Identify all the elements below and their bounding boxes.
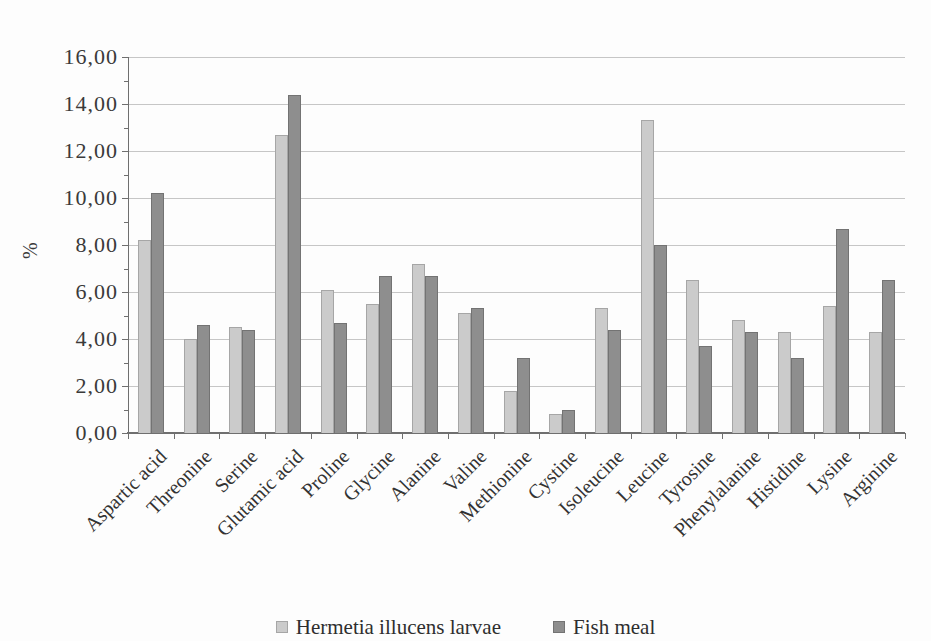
- y-minor-tick-15: [124, 81, 128, 82]
- bar-hermetia-illucens-larvae-lysine: [823, 306, 836, 433]
- amino-acid-bar-chart: % 0,002,004,006,008,0010,0012,0014,0016,…: [0, 0, 931, 641]
- x-tick-14: [768, 433, 769, 439]
- gridline-14: [128, 104, 905, 105]
- bar-fish-meal-lysine: [836, 229, 849, 433]
- y-major-tick-6: [122, 292, 128, 293]
- x-tick-4: [311, 433, 312, 439]
- legend-item-hermetia-illucens-larvae: Hermetia illucens larvae: [276, 614, 501, 640]
- y-major-tick-10: [122, 198, 128, 199]
- x-tick-16: [859, 433, 860, 439]
- gridline-10: [128, 198, 905, 199]
- x-tick-7: [448, 433, 449, 439]
- bar-hermetia-illucens-larvae-cystine: [549, 414, 562, 433]
- x-tick-3: [265, 433, 266, 439]
- y-axis-line: [128, 57, 129, 433]
- y-minor-tick-9: [124, 222, 128, 223]
- bar-fish-meal-leucine: [654, 245, 667, 433]
- bar-fish-meal-alanine: [425, 276, 438, 433]
- gridline-8: [128, 245, 905, 246]
- x-tick-11: [631, 433, 632, 439]
- legend-item-fish-meal: Fish meal: [553, 614, 655, 640]
- bar-fish-meal-phenylalanine: [745, 332, 758, 433]
- y-tick-label-0: 0,00: [48, 421, 118, 445]
- legend-swatch-hermetia-illucens-larvae: [276, 621, 288, 633]
- legend-label-hermetia-illucens-larvae: Hermetia illucens larvae: [296, 614, 501, 640]
- bar-hermetia-illucens-larvae-serine: [229, 327, 242, 433]
- bar-hermetia-illucens-larvae-proline: [321, 290, 334, 433]
- y-minor-tick-7: [124, 269, 128, 270]
- x-tick-17: [905, 433, 906, 439]
- bar-fish-meal-arginine: [882, 280, 895, 433]
- y-major-tick-14: [122, 104, 128, 105]
- bar-fish-meal-isoleucine: [608, 330, 621, 433]
- x-tick-8: [494, 433, 495, 439]
- y-minor-tick-11: [124, 175, 128, 176]
- x-tick-2: [219, 433, 220, 439]
- x-tick-5: [357, 433, 358, 439]
- bar-hermetia-illucens-larvae-arginine: [869, 332, 882, 433]
- bar-fish-meal-glycine: [379, 276, 392, 433]
- bar-fish-meal-tyrosine: [699, 346, 712, 433]
- y-minor-tick-13: [124, 128, 128, 129]
- legend-swatch-fish-meal: [553, 621, 565, 633]
- bar-fish-meal-glutamic-acid: [288, 95, 301, 433]
- bar-fish-meal-serine: [242, 330, 255, 433]
- y-tick-label-14: 14,00: [48, 92, 118, 116]
- y-tick-label-16: 16,00: [48, 45, 118, 69]
- y-tick-label-2: 2,00: [48, 374, 118, 398]
- x-tick-15: [814, 433, 815, 439]
- y-major-tick-12: [122, 151, 128, 152]
- bar-hermetia-illucens-larvae-alanine: [412, 264, 425, 433]
- bar-fish-meal-histidine: [791, 358, 804, 433]
- bar-hermetia-illucens-larvae-glutamic-acid: [275, 135, 288, 433]
- y-tick-label-6: 6,00: [48, 280, 118, 304]
- y-tick-label-8: 8,00: [48, 233, 118, 257]
- gridline-12: [128, 151, 905, 152]
- bar-hermetia-illucens-larvae-glycine: [366, 304, 379, 433]
- bar-fish-meal-proline: [334, 323, 347, 433]
- y-minor-tick-1: [124, 410, 128, 411]
- bar-fish-meal-methionine: [517, 358, 530, 433]
- y-major-tick-2: [122, 386, 128, 387]
- x-tick-10: [585, 433, 586, 439]
- bar-hermetia-illucens-larvae-tyrosine: [686, 280, 699, 433]
- bar-hermetia-illucens-larvae-histidine: [778, 332, 791, 433]
- y-tick-label-10: 10,00: [48, 186, 118, 210]
- y-tick-label-12: 12,00: [48, 139, 118, 163]
- legend: Hermetia illucens larvae Fish meal: [0, 614, 931, 640]
- plot-area: 0,002,004,006,008,0010,0012,0014,0016,00…: [0, 0, 931, 641]
- gridline-6: [128, 292, 905, 293]
- x-tick-9: [539, 433, 540, 439]
- y-tick-label-4: 4,00: [48, 327, 118, 351]
- y-minor-tick-5: [124, 316, 128, 317]
- legend-label-fish-meal: Fish meal: [573, 614, 655, 640]
- y-major-tick-8: [122, 245, 128, 246]
- y-major-tick-16: [122, 57, 128, 58]
- bar-hermetia-illucens-larvae-threonine: [184, 339, 197, 433]
- gridline-16: [128, 57, 905, 58]
- bar-hermetia-illucens-larvae-aspartic-acid: [138, 240, 151, 433]
- x-tick-0: [128, 433, 129, 439]
- bar-hermetia-illucens-larvae-leucine: [641, 120, 654, 433]
- x-tick-6: [402, 433, 403, 439]
- x-tick-12: [676, 433, 677, 439]
- x-tick-13: [722, 433, 723, 439]
- bar-fish-meal-threonine: [197, 325, 210, 433]
- x-label-alanine: Alanine: [384, 445, 444, 505]
- bar-fish-meal-aspartic-acid: [151, 193, 164, 433]
- y-minor-tick-3: [124, 363, 128, 364]
- bar-hermetia-illucens-larvae-valine: [458, 313, 471, 433]
- bar-hermetia-illucens-larvae-phenylalanine: [732, 320, 745, 433]
- bar-hermetia-illucens-larvae-methionine: [504, 391, 517, 433]
- x-tick-1: [174, 433, 175, 439]
- bar-hermetia-illucens-larvae-isoleucine: [595, 308, 608, 433]
- bar-fish-meal-cystine: [562, 410, 575, 434]
- bar-fish-meal-valine: [471, 308, 484, 433]
- y-major-tick-4: [122, 339, 128, 340]
